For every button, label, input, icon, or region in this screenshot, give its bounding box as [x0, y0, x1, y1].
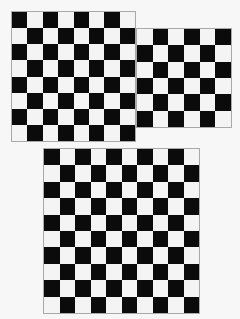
dark-square [44, 247, 60, 263]
dark-square [58, 28, 73, 44]
light-square [12, 60, 27, 76]
dark-square [104, 109, 119, 125]
light-square [75, 198, 91, 214]
light-square [106, 264, 122, 280]
dark-square [104, 77, 119, 93]
dark-square [122, 198, 138, 214]
dark-square [106, 182, 122, 198]
dark-square [104, 12, 119, 28]
light-square [106, 297, 122, 313]
dark-square [58, 93, 73, 109]
dark-square [27, 125, 42, 141]
light-square [184, 45, 200, 61]
light-square [122, 280, 138, 296]
light-square [184, 182, 200, 198]
dark-square [89, 28, 104, 44]
light-square [89, 44, 104, 60]
dark-square [43, 12, 58, 28]
dark-square [153, 165, 169, 181]
light-square [12, 93, 27, 109]
dark-square [137, 111, 153, 127]
dark-square [12, 77, 27, 93]
dark-square [12, 44, 27, 60]
dark-square [215, 62, 231, 78]
light-square [168, 264, 184, 280]
light-square [215, 111, 231, 127]
dark-square [120, 28, 135, 44]
dark-square [120, 93, 135, 109]
dark-square [168, 78, 184, 94]
dark-square [75, 215, 91, 231]
dark-square [91, 198, 107, 214]
dark-square [12, 12, 27, 28]
light-square [74, 28, 89, 44]
light-square [43, 28, 58, 44]
light-square [75, 297, 91, 313]
light-square [58, 77, 73, 93]
dark-square [168, 280, 184, 296]
dark-square [58, 60, 73, 76]
dark-square [74, 109, 89, 125]
light-square [60, 182, 76, 198]
light-square [27, 12, 42, 28]
light-square [44, 198, 60, 214]
dark-square [184, 29, 200, 45]
dark-square [75, 247, 91, 263]
light-square [215, 45, 231, 61]
dark-square [184, 94, 200, 110]
light-square [153, 78, 169, 94]
dark-square [74, 44, 89, 60]
dark-square [184, 198, 200, 214]
light-square [58, 44, 73, 60]
dark-square [74, 77, 89, 93]
light-square [184, 149, 200, 165]
light-square [120, 77, 135, 93]
dark-square [215, 29, 231, 45]
light-square [60, 247, 76, 263]
light-square [120, 44, 135, 60]
light-square [200, 29, 216, 45]
light-square [74, 125, 89, 141]
dark-square [60, 231, 76, 247]
light-square [200, 94, 216, 110]
dark-square [106, 149, 122, 165]
dark-square [58, 125, 73, 141]
light-square [12, 125, 27, 141]
light-square [60, 215, 76, 231]
dark-square [43, 77, 58, 93]
dark-square [168, 247, 184, 263]
dark-square [44, 182, 60, 198]
dark-square [215, 94, 231, 110]
light-square [137, 231, 153, 247]
dark-square [122, 264, 138, 280]
dark-square [200, 45, 216, 61]
light-square [153, 45, 169, 61]
light-square [91, 182, 107, 198]
dark-square [44, 149, 60, 165]
dark-square [74, 12, 89, 28]
light-square [168, 231, 184, 247]
dark-square [200, 111, 216, 127]
light-square [44, 297, 60, 313]
light-square [184, 78, 200, 94]
light-square [122, 215, 138, 231]
checkerboard-8x8 [11, 11, 136, 142]
light-square [106, 231, 122, 247]
light-square [43, 125, 58, 141]
light-square [168, 62, 184, 78]
dark-square [168, 111, 184, 127]
light-square [215, 78, 231, 94]
light-square [58, 109, 73, 125]
light-square [75, 165, 91, 181]
dark-square [153, 198, 169, 214]
light-square [184, 215, 200, 231]
dark-square [168, 182, 184, 198]
light-square [89, 12, 104, 28]
dark-square [153, 297, 169, 313]
dark-square [91, 297, 107, 313]
light-square [120, 12, 135, 28]
dark-square [168, 215, 184, 231]
light-square [200, 62, 216, 78]
dark-square [91, 264, 107, 280]
light-square [104, 125, 119, 141]
